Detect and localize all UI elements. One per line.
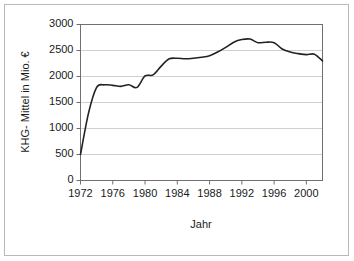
line-chart: 050010001500200025003000 197219761980198…: [0, 0, 354, 261]
x-axis-tick-labels: 19721976198019841988199219962000: [68, 187, 318, 199]
chart-figure: 050010001500200025003000 197219761980198…: [0, 0, 354, 261]
y-axis-ticks: [77, 25, 81, 181]
plot-wrapper: 050010001500200025003000 197219761980198…: [0, 0, 354, 261]
x-tick-label: 1988: [197, 187, 221, 199]
y-tick-label: 3000: [49, 17, 73, 29]
y-axis-tick-labels: 050010001500200025003000: [49, 17, 73, 185]
y-tick-label: 1500: [49, 95, 73, 107]
data-series-line: [81, 39, 323, 155]
x-tick-label: 1972: [68, 187, 92, 199]
x-axis-ticks: [81, 181, 307, 185]
x-tick-label: 1980: [133, 187, 157, 199]
y-axis-title: KHG- Mittel in Mio. €: [19, 51, 31, 152]
y-tick-label: 500: [55, 147, 73, 159]
x-tick-label: 2000: [294, 187, 318, 199]
x-tick-label: 1984: [165, 187, 189, 199]
x-tick-label: 1996: [262, 187, 286, 199]
y-tick-label: 1000: [49, 121, 73, 133]
y-tick-label: 0: [67, 173, 73, 185]
x-tick-label: 1992: [230, 187, 254, 199]
x-axis-title: Jahr: [190, 218, 212, 230]
y-tick-label: 2500: [49, 43, 73, 55]
x-tick-label: 1976: [101, 187, 125, 199]
y-tick-label: 2000: [49, 69, 73, 81]
gridlines: [81, 25, 323, 155]
